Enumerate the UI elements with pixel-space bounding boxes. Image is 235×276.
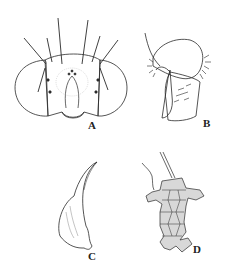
aedeagus-stalk	[160, 152, 175, 178]
panel-d-drawing	[142, 152, 204, 252]
facial-ridge	[65, 76, 79, 108]
panel-c-drawing	[59, 162, 97, 249]
figure-plate	[0, 0, 235, 276]
frons	[45, 54, 100, 117]
panel-label-c: C	[88, 250, 96, 262]
bristles	[24, 18, 118, 92]
panel-label-d: D	[193, 243, 201, 255]
panel-label-a: A	[88, 119, 96, 131]
panel-label-b: B	[203, 117, 210, 129]
right-eye	[98, 60, 127, 116]
left-eye	[15, 60, 48, 116]
aedeagus-body	[146, 178, 204, 252]
panel-b-terminalia-drawing	[145, 33, 211, 121]
epandrium	[153, 39, 203, 78]
sclerite-c	[59, 162, 97, 249]
panel-a-head-drawing	[15, 18, 127, 118]
